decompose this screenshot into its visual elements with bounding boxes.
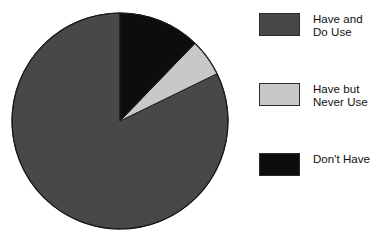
legend-label-have-but-never-use: Have but Never Use: [313, 83, 368, 108]
legend-label-dont-have: Don't Have: [313, 153, 370, 166]
chart-legend: Have and Do Use Have but Never Use Don't…: [259, 0, 391, 240]
legend-label-have-and-do-use: Have and Do Use: [313, 13, 363, 38]
pie-svg: [0, 0, 245, 240]
legend-item-dont-have[interactable]: Don't Have: [259, 153, 370, 176]
legend-swatch-dont-have: [259, 153, 300, 176]
pie-chart-plot-area: [0, 0, 245, 240]
legend-item-have-but-never-use[interactable]: Have but Never Use: [259, 83, 368, 108]
legend-item-have-and-do-use[interactable]: Have and Do Use: [259, 13, 363, 38]
legend-swatch-have-but-never-use: [259, 83, 300, 106]
pie-chart-figure: Have and Do Use Have but Never Use Don't…: [0, 0, 391, 240]
pie-slice-group: [12, 13, 228, 229]
legend-swatch-have-and-do-use: [259, 13, 300, 36]
